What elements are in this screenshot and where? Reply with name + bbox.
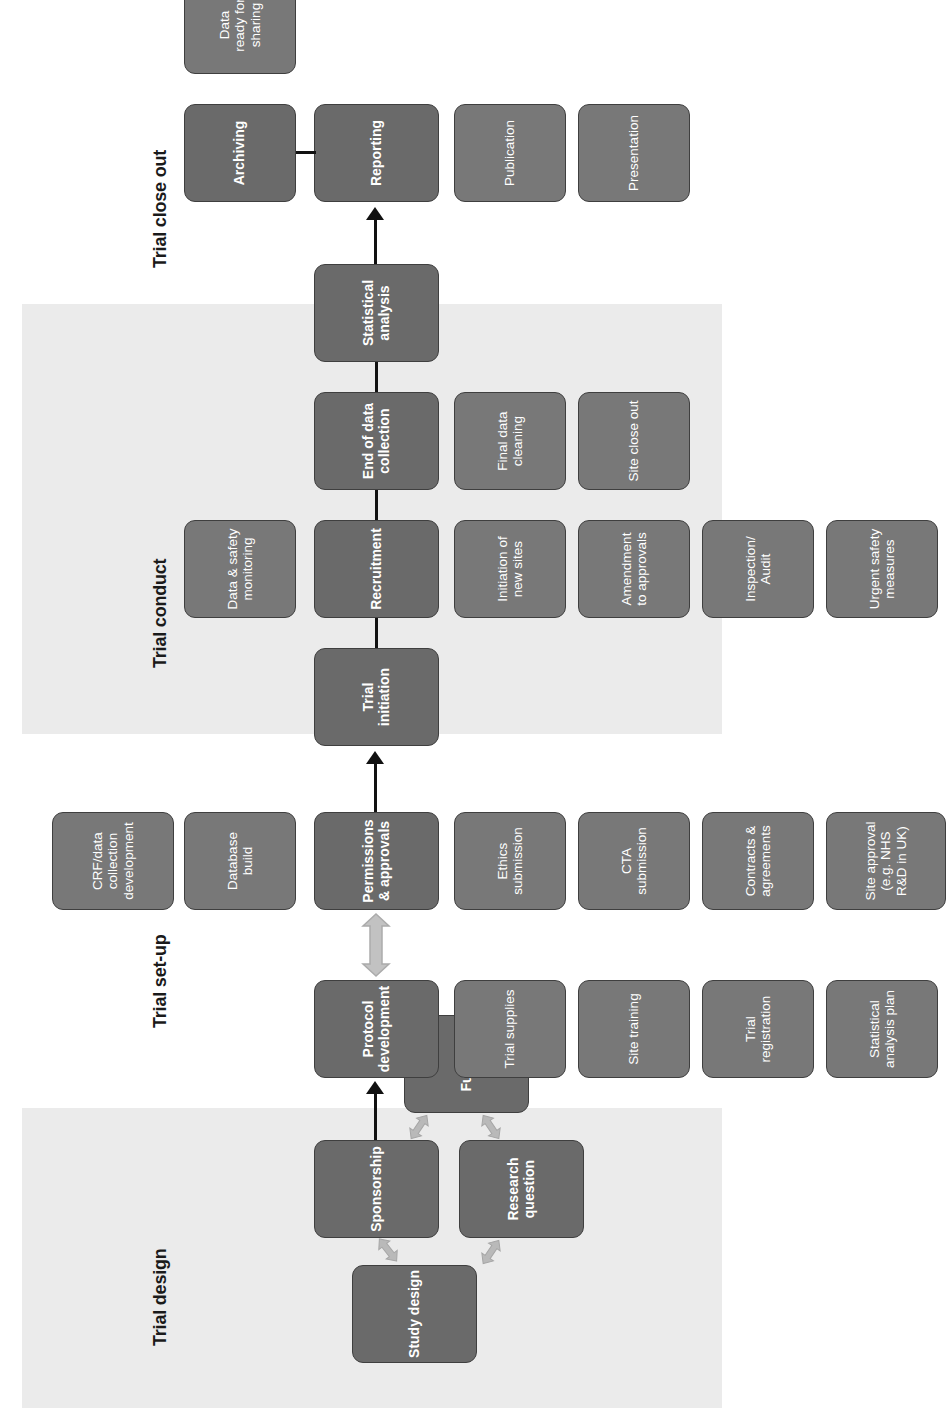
node-archiving[interactable]: Archiving bbox=[184, 104, 296, 202]
node-protocol-development[interactable]: Protocoldevelopment bbox=[314, 980, 439, 1078]
arrowhead-statistical-analysis-reporting bbox=[366, 207, 384, 220]
connector-trial-initiation-recruitment bbox=[375, 618, 378, 648]
node-end-of-data-collection[interactable]: End of datacollection bbox=[314, 392, 439, 490]
trial-lifecycle-flowchart: Trial design Trial set-up Trial conduct … bbox=[22, 18, 812, 1408]
node-trial-supplies[interactable]: Trial supplies bbox=[454, 980, 566, 1078]
node-study-design[interactable]: Study design bbox=[352, 1265, 477, 1363]
node-research-question[interactable]: Researchquestion bbox=[459, 1140, 584, 1238]
connector-sponsorship-protocol bbox=[374, 1090, 377, 1140]
connector-statistical-analysis-reporting bbox=[374, 216, 377, 264]
phase-label-trial-set-up: Trial set-up bbox=[150, 934, 171, 1028]
node-crf-data-collection-development[interactable]: CRF/datacollectiondevelopment bbox=[52, 812, 174, 910]
node-presentation[interactable]: Presentation bbox=[578, 104, 690, 202]
node-database-build[interactable]: Databasebuild bbox=[184, 812, 296, 910]
node-sponsorship[interactable]: Sponsorship bbox=[314, 1140, 439, 1238]
node-cta-submission[interactable]: CTAsubmission bbox=[578, 812, 690, 910]
node-recruitment[interactable]: Recruitment bbox=[314, 520, 439, 618]
double-arrow-protocol-permissions bbox=[359, 912, 393, 978]
double-arrow-research-question-study-design bbox=[474, 1235, 508, 1269]
double-arrow-sponsorship-funding bbox=[402, 1110, 436, 1144]
node-site-close-out[interactable]: Site close out bbox=[578, 392, 690, 490]
phase-label-trial-close-out: Trial close out bbox=[150, 149, 171, 267]
node-final-data-cleaning[interactable]: Final datacleaning bbox=[454, 392, 566, 490]
connector-recruitment-end-of-data bbox=[375, 490, 378, 520]
double-arrow-study-design-sponsorship bbox=[371, 1233, 405, 1267]
node-statistical-analysis-plan[interactable]: Statisticalanalysis plan bbox=[826, 980, 938, 1078]
node-ethics-submission[interactable]: Ethicssubmission bbox=[454, 812, 566, 910]
connector-reporting-archiving bbox=[296, 151, 316, 154]
node-data-safety-monitoring[interactable]: Data & safetymonitoring bbox=[184, 520, 296, 618]
node-amendment-to-approvals[interactable]: Amendmentto approvals bbox=[578, 520, 690, 618]
node-site-training[interactable]: Site training bbox=[578, 980, 690, 1078]
double-arrow-research-question-funding bbox=[474, 1110, 508, 1144]
node-publication[interactable]: Publication bbox=[454, 104, 566, 202]
node-contracts-agreements[interactable]: Contracts &agreements bbox=[702, 812, 814, 910]
phase-label-trial-conduct: Trial conduct bbox=[150, 558, 171, 667]
phase-label-trial-design: Trial design bbox=[150, 1248, 171, 1346]
node-permissions-approvals[interactable]: Permissions& approvals bbox=[314, 812, 439, 910]
node-trial-registration[interactable]: Trialregistration bbox=[702, 980, 814, 1078]
node-site-approval[interactable]: Site approval(e.g. NHSR&D in UK) bbox=[826, 812, 946, 910]
node-data-ready-for-sharing[interactable]: Dataready forsharing bbox=[184, 0, 296, 74]
connector-permissions-trial-initiation bbox=[374, 760, 377, 812]
arrowhead-sponsorship-protocol bbox=[366, 1081, 384, 1094]
node-trial-initiation[interactable]: Trialinitiation bbox=[314, 648, 439, 746]
node-urgent-safety-measures[interactable]: Urgent safetymeasures bbox=[826, 520, 938, 618]
arrowhead-permissions-trial-initiation bbox=[366, 751, 384, 764]
node-initiation-of-new-sites[interactable]: Initiation ofnew sites bbox=[454, 520, 566, 618]
node-statistical-analysis[interactable]: Statisticalanalysis bbox=[314, 264, 439, 362]
node-inspection-audit[interactable]: Inspection/Audit bbox=[702, 520, 814, 618]
connector-end-of-data-statistical-analysis bbox=[375, 362, 378, 392]
node-reporting[interactable]: Reporting bbox=[314, 104, 439, 202]
